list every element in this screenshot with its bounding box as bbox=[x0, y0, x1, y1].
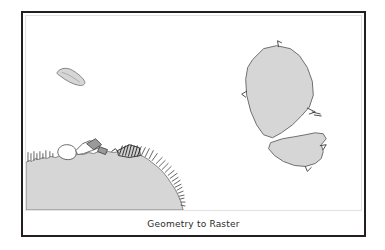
map-canvas bbox=[26, 16, 361, 210]
small-island bbox=[57, 68, 85, 85]
large-island-north bbox=[242, 41, 322, 138]
large-island-south bbox=[269, 133, 327, 172]
mainland-coastline bbox=[26, 139, 185, 210]
figure-caption: Geometry to Raster bbox=[147, 219, 239, 229]
map-panel bbox=[25, 15, 362, 211]
figure-root: Geometry to Raster bbox=[0, 0, 385, 250]
figure-caption-bar: Geometry to Raster bbox=[23, 212, 364, 235]
